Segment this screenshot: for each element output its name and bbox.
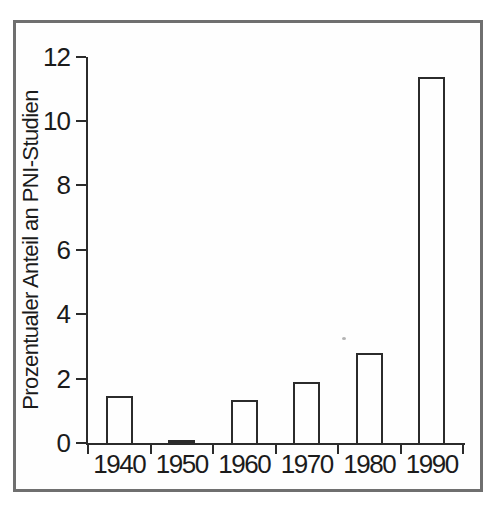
scan-speck-artifact: [342, 337, 346, 340]
y-tick: [76, 378, 86, 380]
bar-1960: [231, 400, 258, 443]
y-tick: [76, 56, 86, 58]
y-tick-label: 2: [20, 366, 70, 392]
y-tick-label: 8: [20, 172, 70, 198]
bar-1940: [106, 396, 133, 443]
y-tick: [76, 442, 86, 444]
bar-1970: [293, 382, 320, 443]
y-tick: [76, 313, 86, 315]
y-tick: [76, 249, 86, 251]
bar-1950: [168, 440, 195, 443]
y-tick-label: 12: [20, 44, 70, 70]
y-tick-label: 4: [20, 301, 70, 327]
y-tick: [76, 184, 86, 186]
bar-chart: Prozentualer Anteil an PNI-Studien 02468…: [0, 0, 497, 509]
y-tick: [76, 120, 86, 122]
bar-1990: [418, 77, 445, 443]
y-axis-line: [86, 57, 88, 446]
y-tick-label: 10: [20, 108, 70, 134]
y-tick-label: 0: [20, 430, 70, 456]
y-tick-label: 6: [20, 237, 70, 263]
x-tick-label: 1990: [392, 451, 472, 477]
bar-1980: [356, 353, 383, 443]
figure-scan: Prozentualer Anteil an PNI-Studien 02468…: [0, 0, 497, 509]
